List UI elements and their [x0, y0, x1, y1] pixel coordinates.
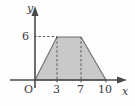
x-tick-label-3: 3 — [53, 84, 60, 95]
x-axis-arrowhead — [117, 77, 127, 84]
trapezoid-area-figure: y x O 6 3 7 10 — [0, 0, 135, 105]
x-tick-label-7: 7 — [77, 84, 84, 95]
x-tick-label-10: 10 — [98, 84, 112, 95]
origin-label: O — [24, 84, 33, 95]
trapezoid-region — [35, 37, 106, 80]
y-axis-label: y — [27, 3, 33, 14]
y-tick-label-6: 6 — [22, 31, 29, 42]
x-axis-label: x — [122, 86, 128, 97]
plot-canvas — [0, 0, 135, 105]
